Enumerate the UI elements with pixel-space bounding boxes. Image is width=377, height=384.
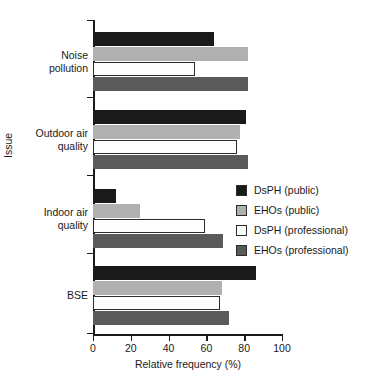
bar: [93, 296, 220, 310]
y-axis-tick: [87, 333, 93, 334]
bar: [93, 47, 248, 61]
x-axis-title: Relative frequency (%): [93, 358, 283, 370]
bar: [93, 140, 237, 154]
legend-swatch-icon: [236, 185, 247, 196]
category-label: Noisepollution: [2, 49, 88, 74]
bar: [93, 155, 248, 169]
category-label-line: quality: [2, 140, 88, 153]
legend-label: DsPH (professional): [254, 224, 348, 236]
legend-label: EHOs (professional): [254, 244, 349, 256]
category-label-line: pollution: [2, 62, 88, 75]
y-axis-tick: [87, 97, 93, 98]
x-axis-tick-label: 100: [262, 342, 302, 354]
category-label: Indoor airquality: [2, 206, 88, 231]
plot-area: [93, 22, 282, 333]
legend-swatch-icon: [236, 245, 247, 256]
legend-swatch-icon: [236, 225, 247, 236]
x-axis-tick-label: 40: [149, 342, 189, 354]
bar: [93, 32, 214, 46]
bar: [93, 266, 256, 280]
x-axis-tick-label: 0: [73, 342, 113, 354]
legend-item: EHOs (professional): [236, 241, 349, 259]
x-axis-tick-label: 80: [224, 342, 264, 354]
y-axis-tick: [87, 20, 93, 21]
category-label-line: BSE: [2, 289, 88, 302]
legend-label: DsPH (public): [254, 184, 319, 196]
bar: [93, 189, 116, 203]
legend-item: DsPH (public): [236, 181, 349, 199]
x-axis-tick-label: 60: [186, 342, 226, 354]
category-label-line: Outdoor air: [2, 127, 88, 140]
bar: [93, 62, 195, 76]
bar: [93, 234, 223, 248]
category-label-line: Indoor air: [2, 206, 88, 219]
x-axis-tick: [244, 336, 245, 341]
legend-item: DsPH (professional): [236, 221, 349, 239]
legend-item: EHOs (public): [236, 201, 349, 219]
legend-label: EHOs (public): [254, 204, 319, 216]
bar: [93, 77, 248, 91]
y-axis-title: Issue: [2, 133, 14, 158]
category-label: Outdoor airquality: [2, 127, 88, 152]
bar: [93, 281, 222, 295]
bar: [93, 219, 205, 233]
x-axis-line: [93, 334, 283, 336]
x-axis-tick: [93, 336, 94, 341]
bar: [93, 125, 240, 139]
x-axis-tick: [169, 336, 170, 341]
chart-legend: DsPH (public)EHOs (public)DsPH (professi…: [236, 181, 349, 261]
y-axis-tick: [87, 253, 93, 254]
category-label: BSE: [2, 289, 88, 302]
bar-chart-figure: 020406080100 NoisepollutionOutdoor airqu…: [0, 0, 377, 384]
y-axis-tick: [87, 175, 93, 176]
x-axis-tick: [206, 336, 207, 341]
bar: [93, 311, 229, 325]
category-label-line: quality: [2, 219, 88, 232]
legend-swatch-icon: [236, 205, 247, 216]
bar: [93, 204, 140, 218]
x-axis-tick: [131, 336, 132, 341]
category-label-line: Noise: [2, 49, 88, 62]
x-axis-tick-label: 20: [111, 342, 151, 354]
bar: [93, 110, 246, 124]
x-axis-tick: [282, 336, 283, 341]
